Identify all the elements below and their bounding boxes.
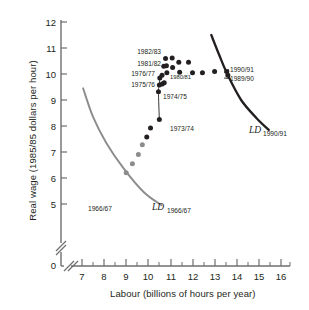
- annotation-1989-90: 1989/90: [230, 75, 254, 82]
- y-tick-9: 9: [51, 95, 56, 106]
- ld-1966-67-label: LD 1966/67: [151, 202, 191, 214]
- data-point: [212, 69, 217, 74]
- annotation-1980-81: 1980/81: [170, 74, 191, 80]
- y-axis-title: Real wage (1985/85 dollars per hour): [27, 56, 38, 226]
- y-tick-8: 8: [51, 121, 56, 132]
- y-tick-0: 0: [51, 260, 56, 271]
- x-axis-title: Labour (billions of hours per year): [110, 288, 256, 299]
- x-tick-10: 10: [143, 271, 154, 282]
- data-point: [170, 65, 175, 70]
- y-tick-7: 7: [51, 147, 56, 158]
- x-tick-15: 15: [254, 271, 265, 282]
- data-point-1974-75: [156, 89, 161, 94]
- labour-market-scatter-figure: 12 11 10 9 8 7 6 5 0 7 8 9 10 11 12 13 1…: [0, 0, 309, 310]
- annotation-1976-77: 1976/77: [131, 70, 155, 77]
- data-point: [136, 152, 141, 157]
- y-tick-10: 10: [45, 69, 56, 80]
- data-point: [186, 60, 191, 65]
- data-point: [130, 161, 135, 166]
- y-tick-5: 5: [51, 199, 56, 210]
- x-tick-14: 14: [232, 271, 243, 282]
- annotation-1990-91: 1990/91: [230, 66, 254, 73]
- x-tick-16: 16: [276, 271, 287, 282]
- annotation-1966-67: 1966/67: [88, 205, 112, 212]
- data-point: [160, 73, 165, 78]
- annotation-1973-74: 1973/74: [170, 125, 194, 132]
- ld-late-subscript: 1990/91: [263, 130, 287, 137]
- ld-curve-1990-91: [211, 35, 268, 130]
- data-point-1982-83: [163, 56, 168, 61]
- x-tick-8: 8: [101, 271, 106, 282]
- x-tick-13: 13: [210, 271, 221, 282]
- ld-early-name: LD: [151, 202, 164, 212]
- x-axis: [61, 259, 290, 271]
- x-tick-12: 12: [188, 271, 199, 282]
- chart-canvas: 12 11 10 9 8 7 6 5 0 7 8 9 10 11 12 13 1…: [0, 0, 309, 310]
- data-point-1980-81: [164, 70, 169, 75]
- data-point: [140, 142, 145, 147]
- ld-1990-91-label: LD 1990/91: [248, 125, 287, 137]
- data-point: [200, 70, 205, 75]
- x-tick-11: 11: [166, 271, 176, 282]
- annotation-1975-76: 1975/76: [131, 81, 155, 88]
- ld-early-subscript: 1966/67: [167, 207, 191, 214]
- annotation-1974-75: 1974/75: [163, 93, 187, 100]
- data-point-1973-74: [157, 117, 162, 122]
- data-point: [162, 80, 167, 85]
- y-tick-6: 6: [51, 173, 56, 184]
- y-tick-12: 12: [45, 17, 56, 28]
- ld-late-name: LD: [248, 125, 261, 135]
- annotation-1981-82: 1981/82: [137, 60, 161, 67]
- data-point-1966-67: [124, 170, 129, 175]
- y-tick-11: 11: [46, 43, 56, 54]
- y-axis: [56, 20, 67, 266]
- x-tick-9: 9: [123, 271, 128, 282]
- data-point: [148, 126, 153, 131]
- annotation-1982-83: 1982/83: [137, 48, 161, 55]
- data-point: [170, 55, 175, 60]
- data-point: [176, 60, 181, 65]
- data-point: [164, 63, 169, 68]
- labour-demand-curves: [83, 35, 269, 205]
- ld-curve-1966-67: [83, 88, 161, 205]
- data-point: [144, 134, 149, 139]
- x-tick-7: 7: [79, 271, 84, 282]
